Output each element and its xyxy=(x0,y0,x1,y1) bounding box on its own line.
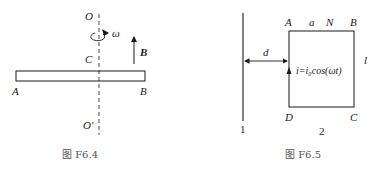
caption-f6-4: 图 F6.4 xyxy=(62,149,98,160)
label-corner-a: A xyxy=(284,16,292,28)
label-n: N xyxy=(325,16,334,28)
label-l: l xyxy=(364,54,367,66)
diagram-canvas: O ω B C A B O' 图 F6.4 A a N B l d i=i₀co… xyxy=(0,0,375,170)
label-corner-b: B xyxy=(350,16,357,28)
label-omega: ω xyxy=(112,27,120,39)
label-side-a: a xyxy=(309,16,315,28)
figure-f6-4: O ω B C A B O' 图 F6.4 xyxy=(11,10,147,160)
label-o: O xyxy=(85,10,93,22)
label-d: d xyxy=(263,46,269,58)
current-direction-arrow-icon xyxy=(287,67,292,74)
label-loop-2: 2 xyxy=(319,125,325,137)
label-a: A xyxy=(11,85,19,97)
label-b-field: B xyxy=(139,46,147,58)
current-equation: i=i₀cos(ωt) xyxy=(296,65,342,77)
label-o-prime: O' xyxy=(83,119,94,131)
label-b-end: B xyxy=(140,85,147,97)
rod-ab xyxy=(16,71,145,81)
label-wire-1: 1 xyxy=(240,123,246,135)
label-c: C xyxy=(85,53,93,65)
caption-f6-5: 图 F6.5 xyxy=(285,149,321,160)
figure-f6-5: A a N B l d i=i₀cos(ωt) D C 1 2 图 F6.5 xyxy=(240,13,367,160)
rotation-omega-icon xyxy=(91,29,109,41)
label-corner-d: D xyxy=(284,111,293,123)
label-corner-c: C xyxy=(350,111,358,123)
